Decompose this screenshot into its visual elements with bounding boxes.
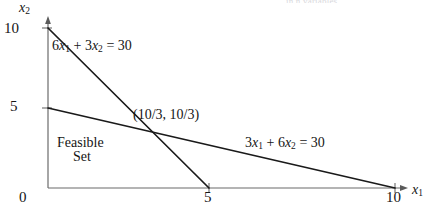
y-tick-label-10: 10 [4,21,19,36]
x-axis-label: x1 [412,183,423,197]
x-tick-label-5: 5 [204,190,212,205]
constraint-2-label: 3x1 + 6x2 = 30 [245,136,325,150]
x-axis-arrow [400,185,408,191]
feasible-set-label-line2: Set [57,150,104,164]
y-tick-label-5: 5 [10,99,18,114]
y-axis-arrow [45,16,51,24]
feasible-set-figure: x2 x1 10 5 0 5 10 6x1 + 3x2 = 30 3x1 + 6… [0,0,432,212]
y-axis-label: x2 [19,1,30,15]
feasible-set-label-line1: Feasible [57,136,104,150]
feasible-set-label: Feasible Set [57,136,104,164]
constraint-1-label: 6x1 + 3x2 = 30 [52,39,132,53]
top-edge-text-fragment: in n variables. [286,0,432,3]
origin-tick-label: 0 [19,190,27,205]
x-tick-label-10: 10 [386,190,401,205]
vertex-label: (10/3, 10/3) [133,108,199,122]
plot-canvas [0,0,432,212]
